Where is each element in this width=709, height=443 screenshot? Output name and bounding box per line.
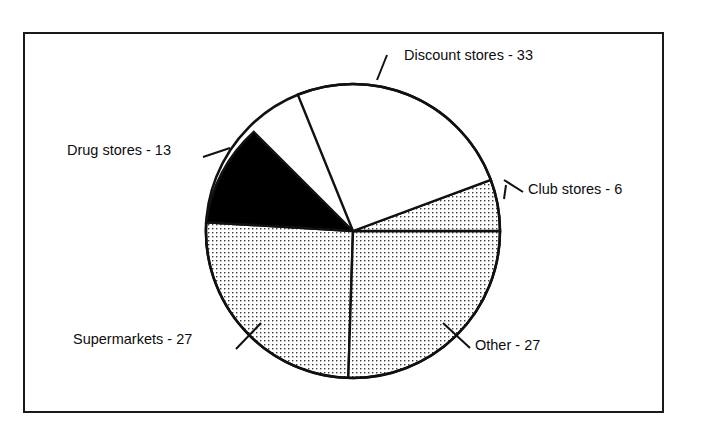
chart-page: Discount stores - 33 Club stores - 6 Oth… <box>0 0 709 443</box>
pie-slice-other[interactable] <box>348 231 500 378</box>
pie-label-discount-stores: Discount stores - 33 <box>404 48 533 63</box>
pie-label-drug-stores: Drug stores - 13 <box>67 143 171 158</box>
leader-line-club-stores-tick <box>504 185 506 199</box>
pie-slice-supermarkets[interactable] <box>206 222 353 378</box>
pie-label-club-stores: Club stores - 6 <box>528 182 622 197</box>
pie-label-other: Other - 27 <box>475 338 540 353</box>
pie-chart <box>0 0 709 443</box>
leader-line-discount-stores <box>377 55 387 80</box>
pie-label-supermarkets: Supermarkets - 27 <box>73 332 192 347</box>
